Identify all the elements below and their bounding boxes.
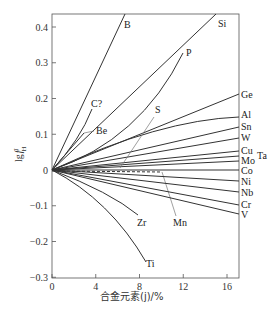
curve-label: Be <box>96 125 108 136</box>
curve-label: Sn <box>241 121 252 132</box>
curve-P <box>52 53 183 170</box>
curve-label: P <box>186 47 192 58</box>
leader-Mn <box>162 172 176 216</box>
curve-V <box>52 170 239 214</box>
x-axis: 0481216 <box>50 274 233 292</box>
y-axis-label-text: lgfjH <box>12 146 28 162</box>
curve-label: Zr <box>137 217 147 228</box>
y-tick-label: 0.2 <box>36 93 49 104</box>
curve-label: W <box>241 132 251 143</box>
curve-label: Ti <box>146 258 155 269</box>
x-axis-label: 合金元素(j)/% <box>100 290 163 302</box>
curve-label: V <box>241 209 249 220</box>
curve-label: S <box>155 104 161 115</box>
x-tick-label: 0 <box>50 281 55 292</box>
x-tick-label: 12 <box>178 281 188 292</box>
y-tick-label: −0.1 <box>30 200 48 211</box>
curve-label: Ni <box>241 176 251 187</box>
curve-label: Ge <box>241 89 253 100</box>
curve-label: Nb <box>241 187 253 198</box>
y-tick-label: −0.3 <box>30 272 48 283</box>
curve-label: Mn <box>173 217 187 228</box>
curve-label: B <box>124 19 131 30</box>
curve-label: Co <box>241 165 253 176</box>
chart: 0.40.30.20.10−0.1−0.2−0.3 0481216 BSiPC?… <box>0 0 277 317</box>
y-axis-label-group: lgfjH <box>12 146 28 162</box>
curve-label: C? <box>91 98 103 109</box>
curve-label: Al <box>241 109 251 120</box>
x-tick-label: 16 <box>222 281 232 292</box>
curve-B <box>52 14 125 170</box>
y-tick-label: 0.3 <box>36 57 49 68</box>
x-tick-label: 4 <box>93 281 98 292</box>
y-tick-label: −0.2 <box>30 236 48 247</box>
y-tick-label: 0.4 <box>36 22 49 33</box>
curve-label: Si <box>218 18 227 29</box>
curve-label: Ta <box>257 150 267 161</box>
curve-Ti <box>52 170 146 262</box>
plot-frame <box>52 14 239 278</box>
y-tick-label: 0 <box>43 165 48 176</box>
y-tick-label: 0.1 <box>36 129 49 140</box>
